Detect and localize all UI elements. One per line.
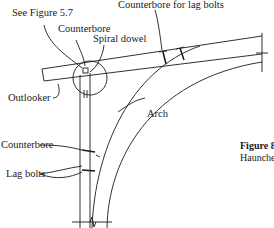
- arch: [92, 46, 262, 228]
- caption-line2: Haunched Arch: [240, 152, 274, 164]
- label-counterbore-lag-bolts: Counterbore for lag bolts: [118, 0, 224, 10]
- lag-bolts-side: [82, 150, 100, 171]
- label-spiral-dowel: Spiral dowel: [93, 33, 146, 44]
- label-see-figure: See Figure 5.7: [12, 7, 73, 18]
- figure-caption: Figure 8.5 Out Haunched Arch: [240, 140, 274, 164]
- counterbore-square: [83, 68, 88, 73]
- label-counterbore-side: Counterbore: [1, 139, 54, 150]
- label-arch: Arch: [147, 108, 169, 119]
- caption-number: Figure 8.5: [240, 140, 274, 151]
- outlooker-arch-diagram: See Figure 5.7 Counterbore Spiral dowel …: [0, 0, 274, 228]
- label-outlooker: Outlooker: [8, 92, 51, 103]
- label-lag-bolts: Lag bolts: [6, 168, 45, 179]
- diagram-drawing: See Figure 5.7 Counterbore Spiral dowel …: [0, 0, 274, 228]
